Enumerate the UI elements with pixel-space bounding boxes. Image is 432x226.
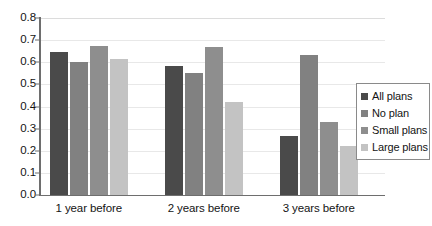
legend-item[interactable]: All plans [361, 88, 425, 104]
x-axis-label-1: 1 year before [56, 202, 122, 215]
bar [50, 52, 68, 195]
bar [300, 55, 318, 195]
legend-swatch-icon [361, 127, 368, 134]
bar [90, 46, 108, 195]
y-axis-tick-label: 0.8 [2, 12, 36, 24]
legend-swatch-icon [361, 144, 368, 151]
y-axis-tick-label: 0.0 [2, 189, 36, 201]
bar-chart: 0.00.10.20.30.40.50.60.70.8 1 year befor… [0, 0, 432, 226]
legend-swatch-icon [361, 110, 368, 117]
legend-label: All plans [372, 90, 412, 102]
y-axis-tick-label: 0.7 [2, 34, 36, 46]
bar [225, 102, 243, 195]
y-axis-tick-label: 0.3 [2, 123, 36, 135]
bar [205, 47, 223, 195]
y-axis-tick-label: 0.1 [2, 167, 36, 179]
legend-item[interactable]: Small plans [361, 122, 425, 138]
legend-swatch-icon [361, 93, 368, 100]
bar [110, 59, 128, 195]
bar [185, 73, 203, 195]
legend: All plansNo planSmall plansLarge plans [356, 83, 430, 160]
legend-item[interactable]: No plan [361, 105, 425, 121]
y-axis-tick-label: 0.5 [2, 79, 36, 91]
bar [340, 146, 358, 195]
bar [165, 66, 183, 195]
legend-item[interactable]: Large plans [361, 139, 425, 155]
x-axis-label-2: 2 years before [168, 202, 240, 215]
y-axis-tick-label: 0.4 [2, 101, 36, 113]
bar [320, 122, 338, 195]
x-axis-label-3: 3 years before [283, 202, 355, 215]
legend-label: Small plans [372, 124, 427, 136]
legend-label: No plan [372, 107, 409, 119]
bars-layer [40, 18, 385, 195]
y-axis-tick-label: 0.2 [2, 145, 36, 157]
x-axis-category-labels: 1 year before2 years before3 years befor… [40, 199, 385, 221]
y-axis-tick-label: 0.6 [2, 57, 36, 69]
y-axis-tick-labels: 0.00.10.20.30.40.50.60.70.8 [0, 0, 36, 200]
legend-label: Large plans [372, 141, 428, 153]
bar [280, 136, 298, 195]
plot-area [40, 18, 385, 195]
bar [70, 62, 88, 195]
